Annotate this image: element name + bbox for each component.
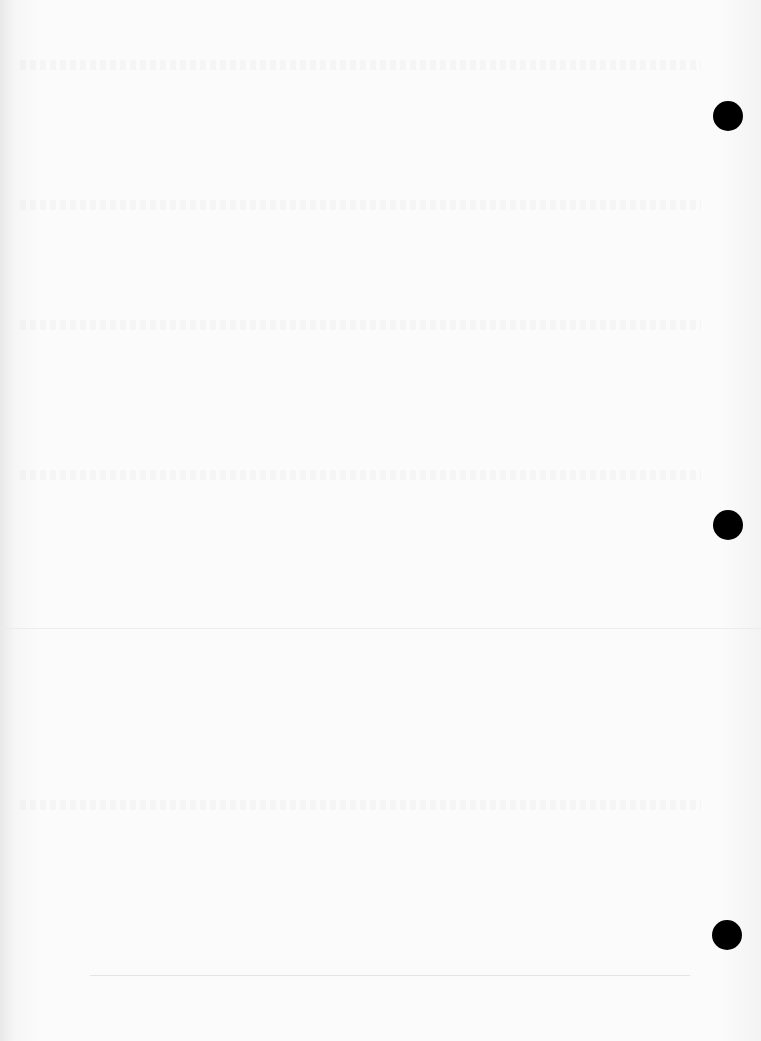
footer-rule bbox=[90, 975, 690, 976]
bleed-through-text bbox=[20, 60, 701, 70]
fold-line bbox=[0, 628, 761, 629]
bleed-through-text bbox=[20, 470, 701, 480]
bleed-through-text bbox=[20, 200, 701, 210]
punch-hole-icon bbox=[713, 101, 743, 131]
punch-hole-icon bbox=[712, 920, 742, 950]
bleed-through-text bbox=[20, 800, 701, 810]
scanned-page bbox=[0, 0, 761, 1041]
punch-hole-icon bbox=[713, 510, 743, 540]
bleed-through-text bbox=[20, 320, 701, 330]
